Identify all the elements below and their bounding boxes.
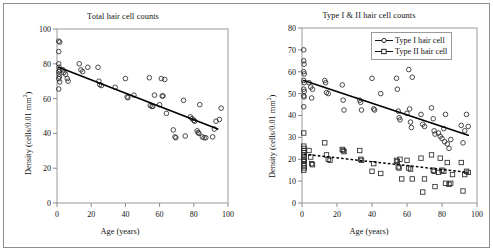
data-point <box>450 172 454 176</box>
data-point <box>219 106 224 111</box>
y-tick-label: 20 <box>43 164 51 173</box>
regression-line <box>304 154 469 172</box>
data-point <box>445 160 449 164</box>
plot-area-type1and2: 01020304050607080020406080100 <box>246 0 493 251</box>
data-point <box>429 106 434 111</box>
data-point <box>431 116 436 121</box>
data-point <box>461 189 465 193</box>
y-tick-label: 0 <box>47 199 51 208</box>
data-point <box>459 123 464 128</box>
data-point <box>326 157 330 161</box>
x-tick-label: 80 <box>438 210 446 219</box>
data-point <box>181 98 186 103</box>
data-point <box>462 129 467 134</box>
data-point <box>433 184 437 188</box>
data-point <box>405 158 409 162</box>
y-tick-label: 10 <box>288 177 296 186</box>
legend-item-type-ii: Type II hair cell <box>375 46 447 57</box>
series-type-ii-hair-cell <box>302 131 471 194</box>
data-point <box>379 171 383 175</box>
data-point <box>410 75 415 80</box>
data-point <box>449 181 453 185</box>
y-tick-label: 70 <box>288 46 296 55</box>
legend: Type I hair cell Type II hair cell <box>371 32 452 60</box>
data-point <box>359 108 364 113</box>
data-point <box>466 124 471 129</box>
data-point <box>171 128 176 133</box>
y-tick-label: 60 <box>43 95 51 104</box>
data-point <box>448 137 453 142</box>
y-tick-label: 30 <box>288 133 296 142</box>
square-icon <box>375 47 393 56</box>
data-point <box>152 93 157 98</box>
data-point <box>197 102 202 107</box>
figure-root: Total hair cell counts Density (cells/0.… <box>0 0 493 251</box>
regression-line <box>59 67 218 129</box>
data-point <box>421 190 425 194</box>
data-point <box>395 87 400 92</box>
plot-area-total: 020406080100020406080100 <box>0 0 246 251</box>
data-point <box>394 76 399 81</box>
data-point <box>408 120 413 125</box>
y-tick-label: 80 <box>288 24 296 33</box>
data-point <box>443 112 448 117</box>
data-point <box>461 141 466 146</box>
y-tick-label: 100 <box>39 25 51 34</box>
data-point <box>307 148 311 152</box>
data-point <box>340 83 345 88</box>
y-tick-label: 40 <box>43 129 51 138</box>
y-tick-label: 60 <box>288 68 296 77</box>
data-point <box>309 96 314 101</box>
data-point <box>370 169 374 173</box>
panel-type-i-ii-hair-cell-counts: Type I & II hair cell counts Density (ce… <box>246 0 492 251</box>
y-tick-label: 20 <box>288 155 296 164</box>
data-point <box>447 146 452 151</box>
legend-label-type-i: Type I hair cell <box>395 36 445 45</box>
data-point <box>370 76 375 81</box>
data-point <box>429 153 433 157</box>
x-tick-label: 0 <box>300 210 304 219</box>
y-tick-label: 80 <box>43 60 51 69</box>
x-tick-label: 40 <box>368 210 376 219</box>
x-tick-label: 0 <box>55 210 59 219</box>
legend-label-type-ii: Type II hair cell <box>395 47 447 56</box>
data-point <box>183 134 188 139</box>
data-point <box>147 75 152 80</box>
data-point <box>123 76 128 81</box>
y-tick-label: 50 <box>288 90 296 99</box>
data-point <box>400 177 404 181</box>
x-tick-label: 60 <box>156 210 164 219</box>
data-point <box>341 98 346 103</box>
data-point <box>164 111 169 116</box>
x-tick-label: 60 <box>403 210 411 219</box>
data-point <box>422 177 426 181</box>
plot-frame <box>57 29 228 203</box>
data-point <box>419 112 424 117</box>
y-tick-label: 0 <box>292 199 296 208</box>
data-point <box>410 177 414 181</box>
data-point <box>85 65 90 70</box>
data-point <box>464 112 469 117</box>
data-point <box>323 141 327 145</box>
data-point <box>358 148 362 152</box>
legend-item-type-i: Type I hair cell <box>375 35 447 46</box>
circle-icon <box>375 36 393 45</box>
x-tick-label: 100 <box>471 210 483 219</box>
data-point <box>378 91 383 96</box>
x-tick-label: 20 <box>87 210 95 219</box>
panel-total-hair-cell-counts: Total hair cell counts Density (cells/0.… <box>0 0 246 251</box>
data-point <box>409 125 414 130</box>
data-point <box>408 167 412 171</box>
y-tick-label: 40 <box>288 111 296 120</box>
data-point <box>438 156 442 160</box>
x-tick-label: 40 <box>121 210 129 219</box>
data-point <box>406 67 411 72</box>
x-tick-label: 20 <box>333 210 341 219</box>
regression-line <box>304 81 469 136</box>
series-type-i-hair-cell <box>301 48 470 151</box>
data-point <box>328 158 332 162</box>
data-point <box>96 65 101 70</box>
data-point <box>342 108 347 113</box>
data-point <box>77 62 82 67</box>
data-point <box>459 160 463 164</box>
